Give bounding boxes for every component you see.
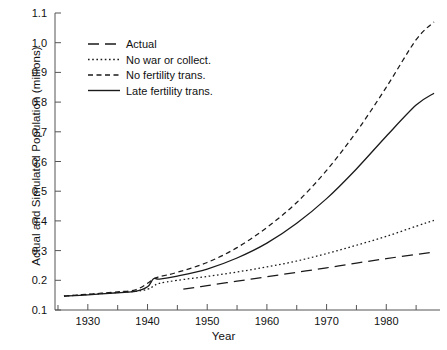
- data-series-group: [64, 22, 434, 296]
- chart-figure: 0.10.20.30.40.50.60.70.80.91.01.1 193019…: [0, 0, 447, 350]
- series-line-no-fertility-trans: [64, 22, 434, 296]
- x-axis-label: Year: [0, 330, 447, 342]
- y-tick-label: 1.1: [32, 7, 47, 19]
- y-axis-label: Actual and Simulated Population (million…: [30, 26, 42, 286]
- x-tick-label: 1950: [195, 315, 219, 327]
- legend-label: Late fertility trans.: [126, 85, 213, 97]
- legend-label: Actual: [126, 38, 157, 50]
- x-tick-label: 1980: [374, 315, 398, 327]
- axis-lines: [55, 13, 440, 310]
- series-line-late-fertility-trans: [64, 93, 434, 296]
- population-line-chart: 0.10.20.30.40.50.60.70.80.91.01.1 193019…: [0, 0, 447, 350]
- x-tick-label: 1940: [135, 315, 159, 327]
- y-tick-label: 0.1: [32, 304, 47, 316]
- x-tick-label: 1930: [76, 315, 100, 327]
- legend-label: No war or collect.: [126, 54, 211, 66]
- series-line-no-war-or-collect: [64, 220, 434, 296]
- x-tick-label: 1970: [314, 315, 338, 327]
- x-tick-label: 1960: [255, 315, 279, 327]
- legend-label: No fertility trans.: [126, 69, 205, 81]
- x-axis-ticks: 193019401950196019701980: [58, 304, 416, 327]
- chart-legend: ActualNo war or collect.No fertility tra…: [88, 38, 213, 97]
